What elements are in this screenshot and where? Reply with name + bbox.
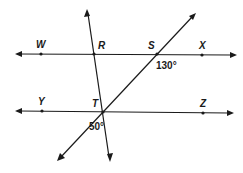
- line-WX: [15, 51, 237, 58]
- line-ST: [57, 13, 196, 161]
- point-R: [92, 52, 95, 55]
- point-S: [155, 52, 158, 55]
- label-S: S: [148, 40, 155, 51]
- geometry-diagram: W R S X Y T Z 130° 50°: [0, 0, 243, 173]
- point-W: [39, 52, 42, 55]
- label-X: X: [198, 40, 207, 51]
- label-Z: Z: [199, 98, 207, 109]
- arrow-left-icon: [15, 51, 22, 57]
- point-T: [101, 110, 104, 113]
- angle-label-T: 50°: [89, 121, 104, 132]
- label-R: R: [98, 40, 106, 51]
- point-X: [200, 53, 203, 56]
- point-Y: [40, 109, 43, 112]
- arrow-up-icon: [84, 9, 90, 17]
- point-Z: [201, 111, 204, 114]
- angle-label-S: 130°: [156, 60, 177, 71]
- label-T: T: [92, 98, 99, 109]
- label-Y: Y: [38, 96, 46, 107]
- arrow-right-icon: [227, 110, 234, 116]
- label-W: W: [36, 39, 47, 50]
- line-RT: [84, 9, 113, 162]
- arrow-right-icon: [230, 52, 237, 58]
- line-YZ: [15, 108, 234, 116]
- arrow-down-icon: [107, 153, 113, 162]
- arrow-left-icon: [15, 108, 22, 114]
